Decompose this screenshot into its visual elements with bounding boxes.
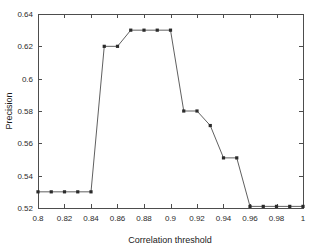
data-point-marker	[248, 205, 251, 208]
x-tick-label: 0.94	[216, 214, 232, 223]
y-tick-label: 0.64	[17, 10, 33, 19]
x-tick-label: 0.96	[242, 214, 258, 223]
x-tick-label: 0.86	[110, 214, 126, 223]
data-point-marker	[129, 29, 132, 32]
data-point-marker	[209, 124, 212, 127]
data-point-marker	[182, 109, 185, 112]
x-tick-label: 1	[301, 214, 306, 223]
data-point-marker	[116, 45, 119, 48]
data-point-marker	[89, 190, 92, 193]
y-axis-tick-labels: 0.520.540.560.580.60.620.64	[17, 10, 33, 213]
x-axis-ticks	[39, 14, 304, 208]
precision-series-line	[38, 30, 303, 206]
data-point-marker	[262, 205, 265, 208]
data-point-marker	[222, 156, 225, 159]
x-axis-title: Correlation threshold	[128, 235, 212, 245]
axes-frame	[39, 15, 304, 209]
data-point-marker	[76, 190, 79, 193]
data-point-marker	[50, 190, 53, 193]
data-point-marker	[288, 205, 291, 208]
data-point-marker	[142, 29, 145, 32]
y-tick-label: 0.6	[22, 75, 34, 84]
precision-series-markers	[36, 29, 304, 208]
y-tick-label: 0.56	[17, 139, 33, 148]
plot-frame	[39, 15, 304, 209]
data-point-marker	[195, 109, 198, 112]
data-point-marker	[36, 190, 39, 193]
y-tick-label: 0.58	[17, 107, 33, 116]
y-tick-label: 0.62	[17, 42, 33, 51]
data-point-marker	[275, 205, 278, 208]
y-tick-label: 0.54	[17, 172, 33, 181]
chart-canvas: 0.80.820.840.860.880.90.920.940.960.981 …	[0, 0, 316, 250]
data-point-marker	[301, 205, 304, 208]
y-tick-label: 0.52	[17, 204, 33, 213]
x-axis-tick-labels: 0.80.820.840.860.880.90.920.940.960.981	[32, 214, 305, 223]
x-tick-label: 0.98	[269, 214, 285, 223]
x-tick-label: 0.84	[83, 214, 99, 223]
data-point-marker	[235, 156, 238, 159]
data-point-marker	[63, 190, 66, 193]
x-tick-label: 0.9	[165, 214, 177, 223]
x-tick-label: 0.8	[32, 214, 44, 223]
x-tick-label: 0.92	[189, 214, 205, 223]
y-axis-title: Precision	[4, 92, 14, 129]
data-point-marker	[103, 45, 106, 48]
x-tick-label: 0.82	[57, 214, 73, 223]
x-tick-label: 0.88	[136, 214, 152, 223]
y-axis-ticks	[38, 15, 303, 209]
precision-vs-correlation-threshold-chart: 0.80.820.840.860.880.90.920.940.960.981 …	[0, 0, 316, 250]
data-point-marker	[156, 29, 159, 32]
data-point-marker	[169, 29, 172, 32]
